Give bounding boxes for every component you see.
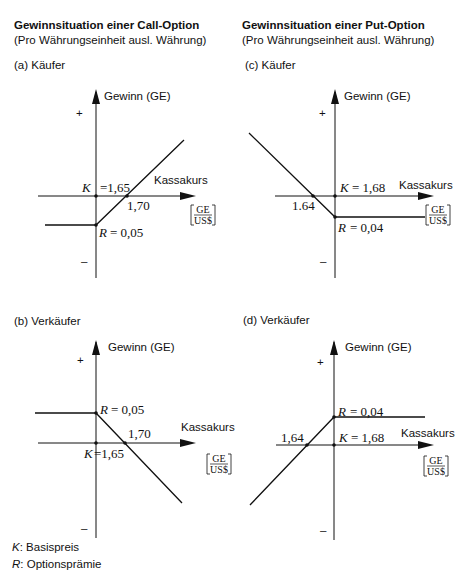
panel-a-chart: Gewinn (GE) + – Kassakurs K =1,65 R = 0,… bbox=[38, 89, 215, 278]
x-axis-arrow-icon bbox=[418, 441, 434, 449]
panel-c-chart: Gewinn (GE) + – Kassakurs K = 1,68 1.64 … bbox=[249, 89, 453, 278]
svg-text:GE: GE bbox=[196, 204, 209, 215]
minus-sign: – bbox=[320, 255, 327, 267]
legend-r: R: Optionsprämie bbox=[12, 558, 102, 570]
x-axis-label: Kassakurs bbox=[181, 421, 235, 433]
y-axis-label: Gewinn (GE) bbox=[104, 90, 171, 102]
payoff-line bbox=[250, 417, 425, 505]
k-value: =1,65 bbox=[94, 446, 124, 461]
y-axis-arrow-icon bbox=[330, 340, 338, 355]
k-symbol: K bbox=[81, 180, 92, 195]
k-symbol: K bbox=[338, 430, 349, 445]
plus-sign: + bbox=[319, 107, 326, 119]
k-symbol: K bbox=[83, 446, 94, 461]
x-axis-label: Kassakurs bbox=[154, 174, 208, 186]
unit-bracket: GE US$ bbox=[207, 453, 231, 475]
legend-k-symbol: K bbox=[12, 541, 20, 553]
legend-k: K: Basispreis bbox=[12, 541, 79, 553]
panel-d-chart: Gewinn (GE) + – Kassakurs R = 0,04 1,64 … bbox=[250, 340, 455, 540]
legend-r-desc: : Optionsprämie bbox=[20, 558, 101, 570]
svg-text:US$: US$ bbox=[427, 466, 445, 477]
svg-text:GE: GE bbox=[429, 455, 442, 466]
breakeven-value: 1,70 bbox=[128, 426, 151, 441]
y-axis-arrow-icon bbox=[92, 340, 100, 355]
x-axis-label: Kassakurs bbox=[399, 179, 453, 191]
r-value: = 0,04 bbox=[350, 404, 384, 419]
k-value: = 1,68 bbox=[352, 180, 385, 195]
k-value: =1,65 bbox=[100, 180, 130, 195]
y-axis-label: Gewinn (GE) bbox=[344, 90, 411, 102]
x-axis-arrow-icon bbox=[180, 192, 196, 200]
plus-sign: + bbox=[317, 356, 324, 368]
r-symbol: R bbox=[99, 402, 108, 417]
svg-text:GE: GE bbox=[212, 453, 225, 464]
panel-b-chart: Gewinn (GE) + – Kassakurs R = 0,05 1,70 … bbox=[35, 340, 235, 538]
svg-text:US$: US$ bbox=[210, 464, 228, 475]
r-symbol: R bbox=[337, 220, 346, 235]
minus-sign: – bbox=[320, 524, 327, 536]
y-axis-arrow-icon bbox=[92, 89, 100, 104]
option-payoff-diagrams: Gewinn (GE) + – Kassakurs K =1,65 R = 0,… bbox=[0, 0, 463, 572]
plus-sign: + bbox=[77, 354, 84, 366]
unit-bracket: GE US$ bbox=[424, 455, 448, 477]
svg-text:US$: US$ bbox=[194, 215, 212, 226]
r-symbol: R bbox=[98, 225, 107, 240]
k-symbol: K bbox=[339, 180, 350, 195]
breakeven-value: 1,64 bbox=[281, 430, 304, 445]
k-value: = 1,68 bbox=[351, 430, 384, 445]
y-axis-label: Gewinn (GE) bbox=[108, 341, 175, 353]
breakeven-value: 1,70 bbox=[127, 198, 150, 213]
breakeven-value: 1.64 bbox=[292, 198, 315, 213]
legend-k-desc: : Basispreis bbox=[20, 541, 79, 553]
svg-text:US$: US$ bbox=[429, 215, 447, 226]
x-axis-label: Kassakurs bbox=[401, 427, 455, 439]
r-value: = 0,05 bbox=[111, 402, 144, 417]
r-value: = 0,05 bbox=[110, 225, 143, 240]
y-axis-arrow-icon bbox=[331, 89, 339, 104]
payoff-line bbox=[249, 133, 425, 217]
unit-bracket: GE US$ bbox=[191, 204, 215, 226]
svg-text:GE: GE bbox=[431, 204, 444, 215]
minus-sign: – bbox=[81, 522, 88, 534]
r-symbol: R bbox=[337, 404, 346, 419]
plus-sign: + bbox=[76, 107, 83, 119]
unit-bracket: GE US$ bbox=[426, 204, 450, 226]
x-axis-arrow-icon bbox=[418, 192, 434, 200]
minus-sign: – bbox=[81, 255, 88, 267]
x-axis-arrow-icon bbox=[180, 439, 196, 447]
y-axis-label: Gewinn (GE) bbox=[345, 341, 412, 353]
r-value: = 0,04 bbox=[350, 220, 384, 235]
